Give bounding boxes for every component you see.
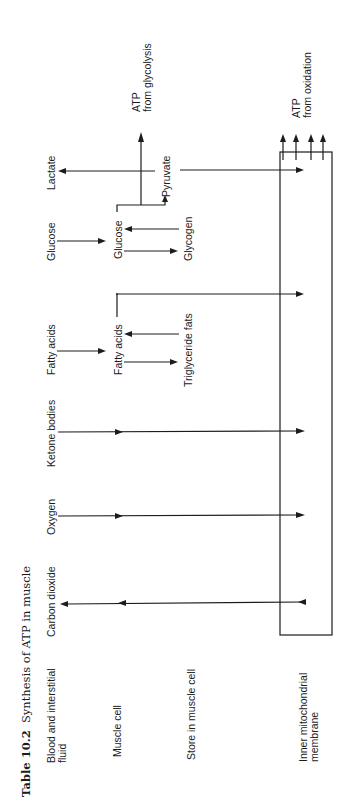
label-atp-glycolysis-line2: from glycolysis xyxy=(142,43,153,112)
label-triglyceride-fats: Triglyceride fats xyxy=(183,313,194,387)
label-carbon-dioxide: Carbon dioxide xyxy=(46,566,57,637)
label-atp-glycolysis: ATPfrom glycolysis xyxy=(131,43,153,112)
row-label-blood-line2: fluid xyxy=(57,668,68,763)
row-label-blood: Blood and interstitialfluid xyxy=(46,668,68,763)
atp-oxidation-arrows xyxy=(280,134,326,160)
label-pyruvate: Pyruvate xyxy=(161,156,172,197)
table-number: Table 10.2 xyxy=(19,730,33,797)
label-ketone-bodies: Ketone bodies xyxy=(46,400,57,467)
row-label-membrane-line2: membrane xyxy=(309,673,320,762)
label-blood-glucose: Glucose xyxy=(46,222,57,261)
label-muscle-glucose: Glucose xyxy=(113,220,124,259)
row-label-muscle-cell: Muscle cell xyxy=(112,705,123,757)
mitochondria-box xyxy=(280,152,332,635)
label-glycogen: Glycogen xyxy=(183,217,194,261)
table-title: Table 10.2 Synthesis of ATP in muscle xyxy=(19,566,33,797)
label-atp-oxidation: ATPfrom oxidation xyxy=(291,52,313,118)
row-label-membrane: Inner mitochondrialmembrane xyxy=(298,673,320,762)
label-oxygen: Oxygen xyxy=(46,499,57,535)
atp-synthesis-diagram: Table 10.2 Synthesis of ATP in muscle Bl… xyxy=(0,0,352,803)
table-caption: Synthesis of ATP in muscle xyxy=(19,566,33,723)
label-lactate: Lactate xyxy=(46,156,57,190)
label-blood-fatty-acids: Fatty acids xyxy=(46,324,57,375)
row-label-store: Store in muscle cell xyxy=(186,669,197,760)
label-muscle-fatty-acids: Fatty acids xyxy=(113,324,124,375)
label-atp-oxidation-line2: from oxidation xyxy=(302,52,313,118)
